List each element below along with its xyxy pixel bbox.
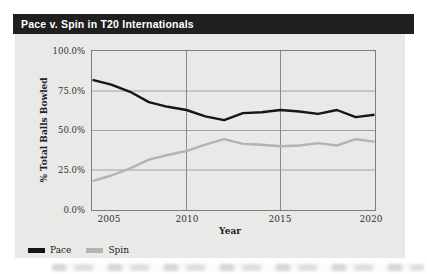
legend-label-pace: Pace: [50, 245, 71, 255]
pace-line-swatch: [28, 248, 45, 253]
x-tick-2005: 2005: [87, 214, 131, 225]
spin-line-swatch: [86, 248, 103, 253]
x-tick-2010: 2010: [165, 214, 209, 225]
chart-title-bar: Pace v. Spin in T20 Internationals: [13, 14, 414, 34]
legend-label-spin: Spin: [108, 245, 129, 255]
x-axis-title: Year: [198, 225, 262, 237]
legend-item-pace: Pace: [28, 245, 71, 255]
plot-area: [91, 50, 376, 211]
page-title: Pace v. Spin in T20 Internationals: [21, 18, 194, 30]
y-axis-title: % Total Balls Bowled: [38, 50, 50, 210]
background-text-smudge: [52, 264, 424, 271]
x-tick-2015: 2015: [258, 214, 302, 225]
x-tick-2020: 2020: [349, 214, 393, 225]
page: { "header": { "title": "Pace v. Spin in …: [0, 0, 427, 274]
chart-legend: Pace Spin: [28, 245, 129, 255]
legend-item-spin: Spin: [86, 245, 129, 255]
chart-canvas: [92, 51, 375, 210]
